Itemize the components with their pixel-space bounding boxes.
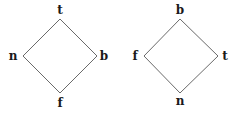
edge-t-n (23, 19, 60, 56)
edge-b-f (144, 19, 180, 56)
edge-n-f (23, 56, 60, 93)
left-diamond: t n b f (9, 3, 109, 110)
node-label-bottom: f (57, 96, 63, 110)
node-label-right: t (222, 49, 228, 63)
edge-t-b (60, 19, 97, 56)
edge-b-f (60, 56, 97, 93)
lattice-diagrams: t n b f b f t n (0, 0, 237, 113)
node-label-top: b (176, 3, 184, 17)
node-label-bottom: n (176, 94, 185, 108)
node-label-right: b (100, 49, 108, 63)
node-label-left: f (132, 49, 138, 63)
edge-t-n (180, 56, 218, 93)
right-diamond: b f t n (132, 3, 228, 108)
node-label-top: t (57, 3, 63, 17)
edge-f-n (144, 56, 180, 93)
edge-b-t (180, 19, 218, 56)
node-label-left: n (9, 49, 18, 63)
